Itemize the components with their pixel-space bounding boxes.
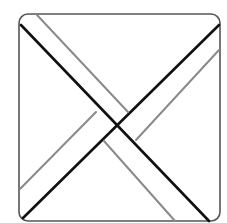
gray-upper-tl-segment xyxy=(37,15,128,112)
gray-lower-br-segment xyxy=(104,141,175,221)
square-frame xyxy=(19,14,220,221)
crossed-square-diagram xyxy=(0,0,227,223)
black-diagonal-bl-tr xyxy=(23,25,219,218)
gray-lower-bl-segment xyxy=(20,112,96,189)
diagonal-lines-group xyxy=(20,15,219,221)
